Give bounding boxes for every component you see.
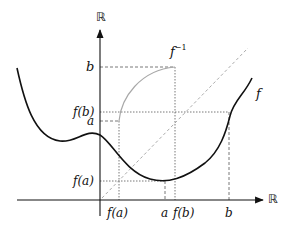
y-tick-b: b xyxy=(86,59,94,74)
x-axis-label: ℝ xyxy=(268,192,278,206)
f-curve xyxy=(17,68,252,181)
x-tick-f-b: f(b) xyxy=(172,206,195,220)
y-tick-f-a: f(a) xyxy=(72,174,94,188)
y-axis-label: ℝ xyxy=(96,10,106,24)
f-inverse-curve xyxy=(119,67,175,121)
inverse-function-diagram: ℝ ℝ f f−1 b f(b) a f(a) f(a) a f(b) b xyxy=(0,0,292,227)
x-tick-b: b xyxy=(225,206,233,220)
f-inverse-sup: −1 xyxy=(175,43,187,52)
f-label: f xyxy=(255,86,263,101)
f-inverse-label: f−1 xyxy=(169,43,187,59)
x-tick-a: a xyxy=(161,206,168,220)
x-tick-f-a: f(a) xyxy=(106,206,128,220)
y-tick-a: a xyxy=(87,114,94,128)
